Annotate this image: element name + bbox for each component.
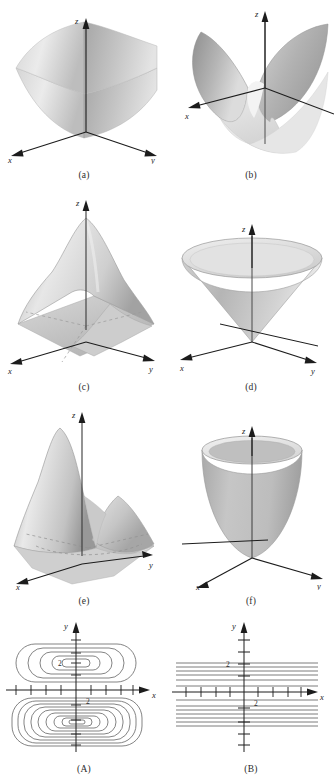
axis-y: y bbox=[252, 558, 323, 590]
panel-e-plot: z x y bbox=[2, 398, 166, 590]
axis-x-label: x bbox=[195, 582, 200, 590]
axis-z-label: z bbox=[74, 16, 79, 26]
contour-lines-upper bbox=[176, 663, 318, 686]
panel-B-caption: (B) bbox=[168, 764, 334, 774]
panel-f-caption: (f) bbox=[168, 596, 334, 606]
axis-y-label: y bbox=[231, 621, 236, 631]
panel-f-plot: z x y bbox=[168, 398, 334, 590]
x-tick-label-2: 2 bbox=[86, 697, 90, 706]
axis-y-label: y bbox=[148, 364, 153, 374]
axis-z-label: z bbox=[241, 426, 246, 436]
axis-y-label: y bbox=[63, 621, 68, 631]
axis-z-label: z bbox=[241, 224, 246, 234]
axis-x-label: x bbox=[319, 692, 324, 702]
panel-A: x 2 y bbox=[2, 612, 166, 774]
axis-y-label: y bbox=[148, 560, 153, 570]
axis-y: y bbox=[252, 342, 317, 376]
panel-d-plot: z x y bbox=[168, 186, 334, 376]
axis-y: y bbox=[86, 132, 157, 164]
panel-e: z x y (e) bbox=[2, 398, 166, 606]
panel-A-caption: (A) bbox=[2, 764, 166, 774]
panel-a-plot: z x y bbox=[2, 2, 166, 164]
surface-peak-tall bbox=[14, 428, 96, 553]
axis-x: x bbox=[195, 558, 252, 590]
panel-c-plot: z x y bbox=[2, 186, 166, 376]
panel-e-caption: (e) bbox=[2, 596, 166, 606]
panel-b-plot: z x bbox=[168, 2, 334, 164]
axis-x-label: x bbox=[184, 111, 189, 121]
panel-c: z x y (c) bbox=[2, 186, 166, 392]
axis-z-label: z bbox=[254, 9, 259, 19]
axis-x-label: x bbox=[179, 363, 184, 373]
axis-x: x bbox=[7, 132, 86, 164]
axis-z-label: z bbox=[75, 198, 80, 208]
panel-b-caption: (b) bbox=[168, 170, 334, 180]
axis-y-label: y bbox=[150, 155, 155, 164]
axis-x-label: x bbox=[151, 690, 156, 700]
panel-f: z x y (f) bbox=[168, 398, 334, 606]
panel-c-caption: (c) bbox=[2, 382, 166, 392]
panel-d: z x y (d) bbox=[168, 186, 334, 392]
axis-x: x 2 bbox=[172, 687, 324, 708]
axis-rear-guide bbox=[220, 324, 318, 346]
panel-B-plot: x 2 y bbox=[168, 612, 334, 758]
y-tick-label-2: 2 bbox=[58, 659, 62, 668]
axis-x-label: x bbox=[7, 155, 12, 164]
axis-y: y 2 bbox=[226, 621, 250, 752]
surface-lobe-left bbox=[193, 32, 248, 122]
axis-x-label: x bbox=[15, 582, 20, 590]
axis-y-label: y bbox=[316, 581, 321, 590]
axis-y-label: y bbox=[310, 366, 315, 376]
panel-A-plot: x 2 y bbox=[2, 612, 166, 758]
axis-x: x bbox=[179, 342, 252, 373]
figure-plate: z x y (a) bbox=[0, 0, 335, 775]
panel-d-caption: (d) bbox=[168, 382, 334, 392]
axis-x-label: x bbox=[7, 366, 12, 376]
axis-z-label: z bbox=[71, 410, 76, 420]
panel-a-caption: (a) bbox=[2, 170, 166, 180]
y-tick-label-2: 2 bbox=[226, 660, 230, 669]
panel-b: z x (b) bbox=[168, 2, 334, 180]
x-tick-label-2: 2 bbox=[254, 699, 258, 708]
panel-B: x 2 y bbox=[168, 612, 334, 774]
panel-a: z x y (a) bbox=[2, 2, 166, 180]
